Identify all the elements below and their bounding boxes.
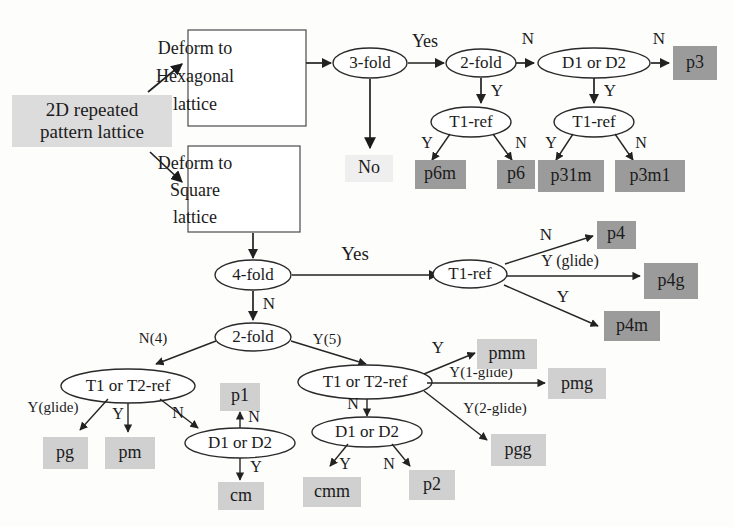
- edge-label-n-d1d2-right: N: [383, 455, 395, 472]
- decision-t1t2ref-right: T1 or T2-ref: [298, 365, 432, 399]
- terminal-p6-label: p6: [507, 163, 525, 183]
- terminal-p2: p2: [409, 470, 455, 500]
- edge-t1ref-hex-b-y: [556, 134, 573, 160]
- terminal-pmg-label: pmg: [561, 373, 593, 393]
- edge-t1ref-hex-a-n: [493, 134, 512, 160]
- start-node-label-line2: pattern lattice: [40, 121, 144, 142]
- edge-label-yes-hexagonal: Yes: [412, 31, 438, 51]
- terminal-p2-label: p2: [423, 474, 441, 494]
- terminal-p3: p3: [673, 46, 717, 80]
- edge-label-n-t1ref-square: N: [540, 225, 552, 244]
- terminal-p4m: p4m: [604, 311, 660, 341]
- terminal-p31m: p31m: [538, 160, 604, 192]
- decision-3-fold: 3-fold: [333, 48, 407, 78]
- terminal-pmg: pmg: [548, 368, 606, 399]
- edge-label-y-t1ref-a: Y: [421, 134, 433, 151]
- edge-label-n4-2fold: N(4): [139, 330, 167, 347]
- decision-t1ref-hex-b-label: T1-ref: [572, 112, 616, 131]
- terminal-cmm: cmm: [303, 477, 361, 507]
- decision-4-fold-label: 4-fold: [232, 265, 274, 284]
- deform-hexagonal-line1: Deform to: [158, 38, 232, 58]
- start-node: 2D repeated pattern lattice: [12, 95, 172, 147]
- terminal-pmm: pmm: [477, 339, 537, 369]
- decision-d1d2-hex-label: D1 or D2: [562, 53, 626, 72]
- terminal-no-label: No: [358, 157, 380, 177]
- edge-label-n-4fold: N: [263, 294, 275, 313]
- process-box-deform-hexagonal: Deform to Hexagonal lattice: [156, 30, 306, 126]
- terminal-p4g: p4g: [644, 263, 698, 299]
- decision-4-fold: 4-fold: [215, 260, 291, 290]
- terminal-p6: p6: [497, 160, 535, 189]
- decision-t1ref-square-label: T1-ref: [448, 264, 492, 283]
- terminal-pgg: pgg: [491, 434, 546, 466]
- edge-label-n-t1t2-left: N: [172, 404, 184, 421]
- flowchart-page: 2D repeated pattern lattice Deform to He…: [0, 0, 733, 527]
- decision-3-fold-label: 3-fold: [349, 53, 391, 72]
- edge-label-y-d1d2-left: Y: [250, 458, 262, 475]
- terminal-p3m1: p3m1: [615, 160, 685, 192]
- terminal-p4: p4: [597, 221, 636, 249]
- edge-label-yglide-left: Y(glide): [28, 399, 79, 416]
- terminal-pmm-label: pmm: [488, 343, 525, 363]
- terminal-no: No: [345, 155, 393, 182]
- edge-t1ref-hex-a-y: [432, 134, 450, 160]
- edge-label-y-t1t2-left: Y: [112, 405, 124, 422]
- decision-t1t2ref-left: T1 or T2-ref: [61, 369, 195, 403]
- terminal-p3-label: p3: [686, 52, 704, 72]
- edge-label-y2glide-right: Y(2-glide): [463, 400, 526, 417]
- terminal-pg-label: pg: [56, 442, 74, 462]
- edge-label-n-t1ref-b: N: [635, 134, 647, 151]
- terminal-pg: pg: [43, 437, 88, 469]
- terminal-pm: pm: [105, 437, 155, 469]
- edge-t1ref-square-y: [504, 285, 598, 326]
- terminal-p31m-label: p31m: [550, 165, 591, 185]
- deform-square-line2: Square: [170, 180, 220, 200]
- terminal-pm-label: pm: [118, 442, 141, 462]
- decision-d1d2-hex: D1 or D2: [538, 48, 650, 78]
- terminal-cmm-label: cmm: [314, 481, 350, 501]
- decision-d1d2-right: D1 or D2: [312, 417, 422, 447]
- deform-hexagonal-line3: lattice: [173, 94, 217, 114]
- terminal-pgg-label: pgg: [505, 439, 532, 459]
- edge-t1ref-hex-b-n: [615, 134, 633, 160]
- terminal-p6m: p6m: [415, 160, 466, 189]
- edge-label-y-2fold-hex: Y: [491, 81, 503, 100]
- terminal-cm-label: cm: [230, 485, 252, 505]
- decision-d1d2-left-label: D1 or D2: [208, 433, 272, 452]
- decision-2-fold-square: 2-fold: [215, 323, 291, 351]
- edge-label-yglide-square: Y (glide): [541, 252, 599, 270]
- decision-2-fold-hex: 2-fold: [446, 49, 516, 77]
- edge-label-yes-square: Yes: [341, 243, 369, 264]
- edge-label-y-d1d2-right: Y: [339, 455, 351, 472]
- terminal-p6m-label: p6m: [424, 163, 456, 183]
- decision-d1d2-right-label: D1 or D2: [335, 422, 399, 441]
- edge-label-n-t1ref-a: N: [515, 134, 527, 151]
- decision-t1ref-square: T1-ref: [433, 260, 507, 288]
- process-box-deform-square: Deform to Square lattice: [158, 146, 300, 232]
- edge-label-n-d1d2-hex: N: [653, 29, 665, 48]
- edge-label-y-d1d2-hex: Y: [604, 81, 616, 100]
- edge-label-y-t1ref-square: Y: [557, 287, 569, 306]
- edge-t1t2-left-yglide: [80, 399, 108, 430]
- terminal-p1-label: p1: [231, 385, 249, 405]
- edge-label-y5-2fold: Y(5): [313, 331, 341, 348]
- terminal-p4m-label: p4m: [616, 315, 648, 335]
- terminal-cm: cm: [218, 482, 264, 510]
- terminal-p3m1-label: p3m1: [629, 165, 670, 185]
- decision-t1t2ref-right-label: T1 or T2-ref: [323, 372, 408, 391]
- decision-t1ref-hex-a-label: T1-ref: [449, 112, 493, 131]
- decision-d1d2-left: D1 or D2: [185, 428, 295, 458]
- terminal-p4g-label: p4g: [658, 270, 685, 290]
- deform-square-line3: lattice: [173, 207, 217, 227]
- decision-t1t2ref-left-label: T1 or T2-ref: [86, 376, 171, 395]
- decision-t1ref-hex-a: T1-ref: [431, 107, 511, 137]
- edge-label-y-t1ref-b: Y: [545, 134, 557, 151]
- edge-label-n-t1t2-right: N: [347, 395, 359, 412]
- start-node-label-line1: 2D repeated: [46, 99, 139, 120]
- decision-2-fold-hex-label: 2-fold: [460, 53, 502, 72]
- terminal-p4-label: p4: [607, 223, 625, 243]
- edge-label-n-2fold-hex: N: [522, 29, 534, 48]
- terminal-p1: p1: [220, 383, 260, 411]
- decision-t1ref-hex-b: T1-ref: [554, 107, 634, 137]
- edge-label-y-t1t2-right: Y: [432, 338, 444, 357]
